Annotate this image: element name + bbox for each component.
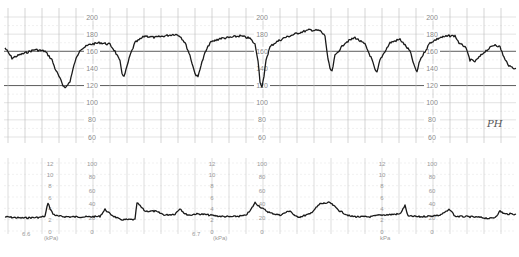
kpa-tick-label: 10 [209,172,216,178]
fhr-tick-label: 100 [86,99,98,106]
mmhg-tick-label: 20 [259,215,266,221]
mmhg-tick-label: 80 [259,174,266,180]
fhr-tick-label: 140 [86,65,98,72]
kpa-tick-label: 2 [210,217,214,223]
fhr-tick-label: 200 [86,14,98,21]
kpa-tick-label: 8 [48,183,52,189]
kpa-tick-label: 4 [210,206,214,212]
mmhg-tick-label: 40 [429,201,436,207]
kpa-unit-label-1: (kPa) [44,235,58,241]
kpa-tick-label: 8 [210,183,214,189]
fhr-tick-label: 80 [428,116,436,123]
kpa-tick-label: 6 [48,195,52,201]
fhr-axis-labels: 2001801601401201008060200180160140120100… [84,13,440,141]
fhr-tick-label: 200 [256,14,268,21]
paper-speed-label-1: 6.6 [22,231,31,237]
toco-axis-labels: 1210864201210864201210864201008060402001… [47,161,438,235]
mmhg-tick-label: 60 [89,188,96,194]
fhr-tick-label: 180 [256,31,268,38]
kpa-tick-label: 2 [380,217,384,223]
fhr-tick-label: 160 [256,48,268,55]
fhr-tick-label: 140 [426,65,438,72]
fhr-tick-label: 160 [426,48,438,55]
kpa-tick-label: 6 [380,195,384,201]
kpa-tick-label: 0 [48,229,52,235]
kpa-tick-label: 10 [47,172,54,178]
kpa-tick-label: 12 [47,161,54,167]
fhr-tick-label: 100 [426,99,438,106]
mmhg-tick-label: 0 [90,229,94,235]
mmhg-tick-label: 60 [429,188,436,194]
fhr-tick-label: 80 [258,116,266,123]
fhr-tick-label: 60 [258,134,266,141]
fhr-trace-line [5,29,516,88]
mmhg-tick-label: 80 [89,174,96,180]
paper-speed-label-2: 6.7 [192,231,201,237]
fhr-tick-label: 80 [88,116,96,123]
kpa-tick-label: 0 [210,229,214,235]
fhr-tick-label: 100 [256,99,268,106]
fhr-tick-label: 60 [88,134,96,141]
kpa-tick-label: 12 [379,161,386,167]
mmhg-tick-label: 100 [257,161,268,167]
mmhg-tick-label: 0 [260,229,264,235]
mmhg-tick-label: 0 [430,229,434,235]
toco-grid [4,158,516,234]
mmhg-tick-label: 60 [259,188,266,194]
kpa-tick-label: 2 [48,217,52,223]
ctg-trace-chart: 2001801601401201008060200180160140120100… [0,0,519,257]
fhr-tick-label: 180 [426,31,438,38]
mmhg-tick-label: 80 [429,174,436,180]
fhr-tick-label: 60 [428,134,436,141]
kpa-unit-label-2: (kPa) [213,235,227,241]
kpa-tick-label: 10 [379,172,386,178]
kpa-tick-label: 12 [209,161,216,167]
fhr-tick-label: 160 [86,48,98,55]
kpa-tick-label: 8 [380,183,384,189]
mmhg-tick-label: 100 [427,161,438,167]
signature-annotation: PH [486,118,503,129]
kpa-unit-label-3: kPa [380,235,391,241]
mmhg-tick-label: 40 [89,201,96,207]
fhr-tick-label: 200 [426,14,438,21]
kpa-tick-label: 6 [210,195,214,201]
mmhg-tick-label: 100 [87,161,98,167]
fhr-tick-label: 120 [86,82,98,89]
fhr-tick-label: 120 [426,82,438,89]
kpa-tick-label: 0 [380,229,384,235]
kpa-tick-label: 4 [380,206,384,212]
fhr-tick-label: 180 [86,31,98,38]
